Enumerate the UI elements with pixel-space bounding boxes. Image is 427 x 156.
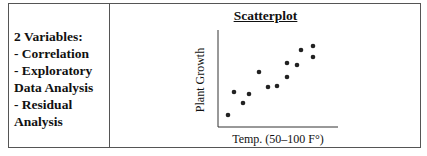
data-point xyxy=(247,92,252,97)
data-point xyxy=(257,70,262,75)
data-point xyxy=(295,63,300,68)
data-point xyxy=(226,113,231,118)
data-point xyxy=(266,85,271,90)
data-point xyxy=(275,84,280,89)
data-point xyxy=(299,48,304,53)
data-point xyxy=(285,61,290,66)
scatter-plot xyxy=(0,0,427,156)
data-points xyxy=(226,44,316,118)
data-point xyxy=(311,55,316,60)
data-point xyxy=(285,75,290,80)
data-point xyxy=(232,90,237,95)
data-point xyxy=(311,44,316,49)
data-point xyxy=(241,101,246,106)
